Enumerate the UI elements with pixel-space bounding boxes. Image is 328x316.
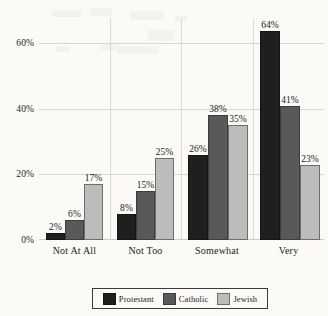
bar-group-somewhat: 26% 38% 35% bbox=[181, 18, 253, 240]
value-label-protestant: 26% bbox=[180, 144, 216, 154]
legend-entry-jewish[interactable]: Jewish bbox=[217, 293, 257, 305]
value-label-jewish: 35% bbox=[220, 114, 256, 124]
value-label-jewish: 23% bbox=[292, 154, 328, 164]
legend-swatch-catholic-icon bbox=[163, 293, 176, 305]
legend-label-protestant: Protestant bbox=[119, 294, 154, 304]
value-label-catholic: 38% bbox=[200, 104, 236, 114]
bar-jewish[interactable] bbox=[155, 158, 174, 240]
chart-figure: 0% 20% 40% 60% 2% 6% 17% 8% 15% 2 bbox=[0, 0, 328, 316]
y-axis-tick-label: 40% bbox=[0, 104, 34, 114]
y-axis-tick-label: 60% bbox=[0, 38, 34, 48]
legend-swatch-protestant-icon bbox=[103, 293, 116, 305]
value-label-protestant: 8% bbox=[109, 203, 144, 213]
value-label-catholic: 41% bbox=[272, 95, 308, 105]
scan-artifact bbox=[52, 10, 82, 17]
bar-protestant[interactable] bbox=[117, 214, 136, 240]
bar-jewish[interactable] bbox=[300, 165, 320, 240]
bar-protestant[interactable] bbox=[260, 31, 280, 240]
legend-entry-protestant[interactable]: Protestant bbox=[103, 293, 154, 305]
legend-swatch-jewish-icon bbox=[217, 293, 230, 305]
bar-jewish[interactable] bbox=[228, 125, 248, 240]
value-label-jewish: 17% bbox=[76, 173, 111, 183]
value-label-protestant: 2% bbox=[38, 222, 73, 232]
bar-catholic[interactable] bbox=[208, 115, 228, 240]
x-axis-label-very: Very bbox=[253, 245, 324, 256]
value-label-catholic: 15% bbox=[128, 180, 163, 190]
value-label-catholic: 6% bbox=[57, 209, 92, 219]
x-axis-label-somewhat: Somewhat bbox=[181, 245, 253, 256]
bar-group-not-at-all: 2% 6% 17% bbox=[39, 18, 110, 240]
y-axis-tick-label: 20% bbox=[0, 169, 34, 179]
bar-catholic[interactable] bbox=[280, 106, 300, 240]
bar-protestant[interactable] bbox=[46, 233, 65, 240]
bar-protestant[interactable] bbox=[188, 155, 208, 240]
legend-label-catholic: Catholic bbox=[179, 294, 209, 304]
chart-legend: Protestant Catholic Jewish bbox=[92, 288, 268, 309]
scan-artifact bbox=[90, 8, 112, 16]
y-axis-tick-label: 0% bbox=[0, 235, 34, 245]
bar-group-very: 64% 41% 23% bbox=[253, 18, 324, 240]
plot-area: 2% 6% 17% 8% 15% 25% 26% 38% 35% bbox=[39, 18, 324, 240]
value-label-jewish: 25% bbox=[147, 147, 182, 157]
legend-label-jewish: Jewish bbox=[233, 294, 257, 304]
legend-entry-catholic[interactable]: Catholic bbox=[163, 293, 209, 305]
value-label-protestant: 64% bbox=[252, 20, 288, 30]
x-axis-label-not-at-all: Not At All bbox=[39, 245, 110, 256]
x-axis-label-not-too: Not Too bbox=[110, 245, 181, 256]
bar-catholic[interactable] bbox=[136, 191, 155, 240]
bar-group-not-too: 8% 15% 25% bbox=[110, 18, 181, 240]
